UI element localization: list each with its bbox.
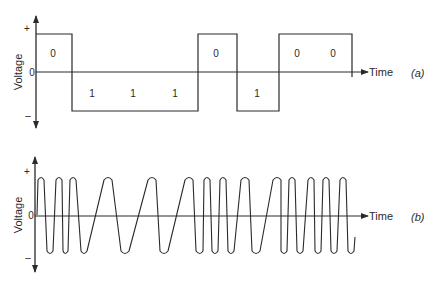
bit-label: 0	[50, 48, 56, 59]
y-tick-plus-b: +	[24, 166, 30, 177]
bit-label: 0	[294, 48, 300, 59]
y-tick-zero-b: 0	[28, 210, 34, 221]
panel-a: 0 1 1 1 0 1 0 0 + 0 – Voltage Time (a)	[12, 16, 425, 128]
y-axis-label-b: Voltage	[12, 197, 24, 234]
bit-label: 0	[330, 48, 336, 59]
bit-label: 1	[254, 88, 260, 99]
modulation-diagram: 0 1 1 1 0 1 0 0 + 0 – Voltage Time (a) +…	[0, 0, 442, 282]
x-axis-label-b: Time	[369, 210, 393, 222]
bit-label: 1	[89, 88, 95, 99]
panel-tag-b: (b)	[411, 211, 425, 223]
panel-tag-a: (a)	[411, 67, 425, 79]
x-axis-label-a: Time	[369, 66, 393, 78]
y-tick-minus-a: –	[25, 110, 31, 121]
y-axis-label-a: Voltage	[12, 54, 24, 91]
y-tick-zero-a: 0	[29, 67, 35, 78]
bit-label: 1	[172, 88, 178, 99]
y-tick-plus-a: +	[24, 23, 30, 34]
panel-b: + 0 – Voltage Time (b)	[12, 157, 425, 272]
bit-label: 1	[130, 88, 136, 99]
bit-label: 0	[213, 48, 219, 59]
y-tick-minus-b: –	[25, 252, 31, 263]
